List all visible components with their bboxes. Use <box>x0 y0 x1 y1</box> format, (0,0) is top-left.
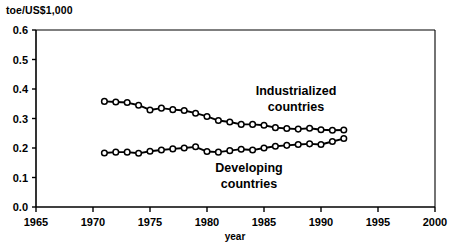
data-point-marker <box>330 128 336 134</box>
data-point-marker <box>204 114 210 120</box>
data-point-marker <box>147 107 153 113</box>
data-point-marker <box>238 122 244 128</box>
data-point-marker <box>284 126 290 132</box>
data-point-marker <box>181 145 187 151</box>
y-tick-label: 0.4 <box>13 83 29 95</box>
y-tick-label: 0.5 <box>13 54 28 66</box>
data-point-marker <box>295 142 301 148</box>
data-point-marker <box>330 139 336 145</box>
x-tick-label: 1990 <box>309 216 333 228</box>
data-point-marker <box>227 119 233 125</box>
data-point-marker <box>102 150 108 156</box>
data-point-marker <box>284 143 290 149</box>
energy-intensity-chart: toe/US$1,000 0.00.10.20.30.40.50.6 19651… <box>0 0 471 250</box>
x-tick-label: 1970 <box>81 216 105 228</box>
x-axis-title: year <box>225 231 246 242</box>
data-point-marker <box>216 118 222 124</box>
x-tick-label: 1975 <box>138 216 162 228</box>
y-tick-label: 0.2 <box>13 142 28 154</box>
data-point-marker <box>159 105 165 111</box>
data-point-marker <box>170 146 176 152</box>
data-point-marker <box>170 107 176 113</box>
data-point-marker <box>136 151 142 157</box>
data-point-marker <box>261 145 267 151</box>
data-point-marker <box>261 122 267 128</box>
y-tick-label: 0.3 <box>13 113 28 125</box>
x-tick-label: 1995 <box>366 216 390 228</box>
data-point-marker <box>273 143 279 149</box>
data-point-marker <box>250 122 256 128</box>
developing-label-line2: countries <box>221 177 277 191</box>
data-point-marker <box>159 147 165 153</box>
data-point-marker <box>113 99 119 105</box>
industrialized-label-line2: countries <box>268 100 324 114</box>
y-axis-ticks: 0.00.10.20.30.40.50.6 <box>13 24 36 213</box>
x-tick-label: 1965 <box>24 216 48 228</box>
data-point-marker <box>124 100 130 106</box>
x-tick-label: 1980 <box>195 216 219 228</box>
data-point-marker <box>147 148 153 154</box>
data-point-marker <box>113 149 119 155</box>
x-axis-ticks: 19651970197519801985199019952000 <box>24 207 447 228</box>
data-point-marker <box>295 126 301 132</box>
x-tick-label: 2000 <box>423 216 447 228</box>
data-point-marker <box>238 146 244 152</box>
x-tick-label: 1985 <box>252 216 276 228</box>
data-point-marker <box>181 108 187 114</box>
series-developing <box>102 136 347 156</box>
y-tick-label: 0.1 <box>13 172 28 184</box>
data-point-marker <box>341 127 347 133</box>
data-point-marker <box>318 142 324 148</box>
data-point-marker <box>102 99 108 105</box>
data-point-marker <box>204 149 210 155</box>
data-point-marker <box>273 125 279 131</box>
data-point-marker <box>216 149 222 155</box>
data-point-marker <box>250 147 256 153</box>
data-point-marker <box>193 144 199 150</box>
data-point-marker <box>193 110 199 116</box>
data-point-marker <box>341 136 347 142</box>
chart-canvas: 0.00.10.20.30.40.50.6 196519701975198019… <box>0 0 471 250</box>
y-tick-label: 0.0 <box>13 201 28 213</box>
data-point-marker <box>227 148 233 154</box>
y-tick-label: 0.6 <box>13 24 28 36</box>
data-point-marker <box>318 127 324 133</box>
data-point-marker <box>136 102 142 108</box>
data-point-marker <box>307 125 313 131</box>
industrialized-label-line1: Industrialized <box>256 84 337 98</box>
data-point-marker <box>124 149 130 155</box>
developing-label-line1: Developing <box>215 161 282 175</box>
data-point-marker <box>307 141 313 147</box>
